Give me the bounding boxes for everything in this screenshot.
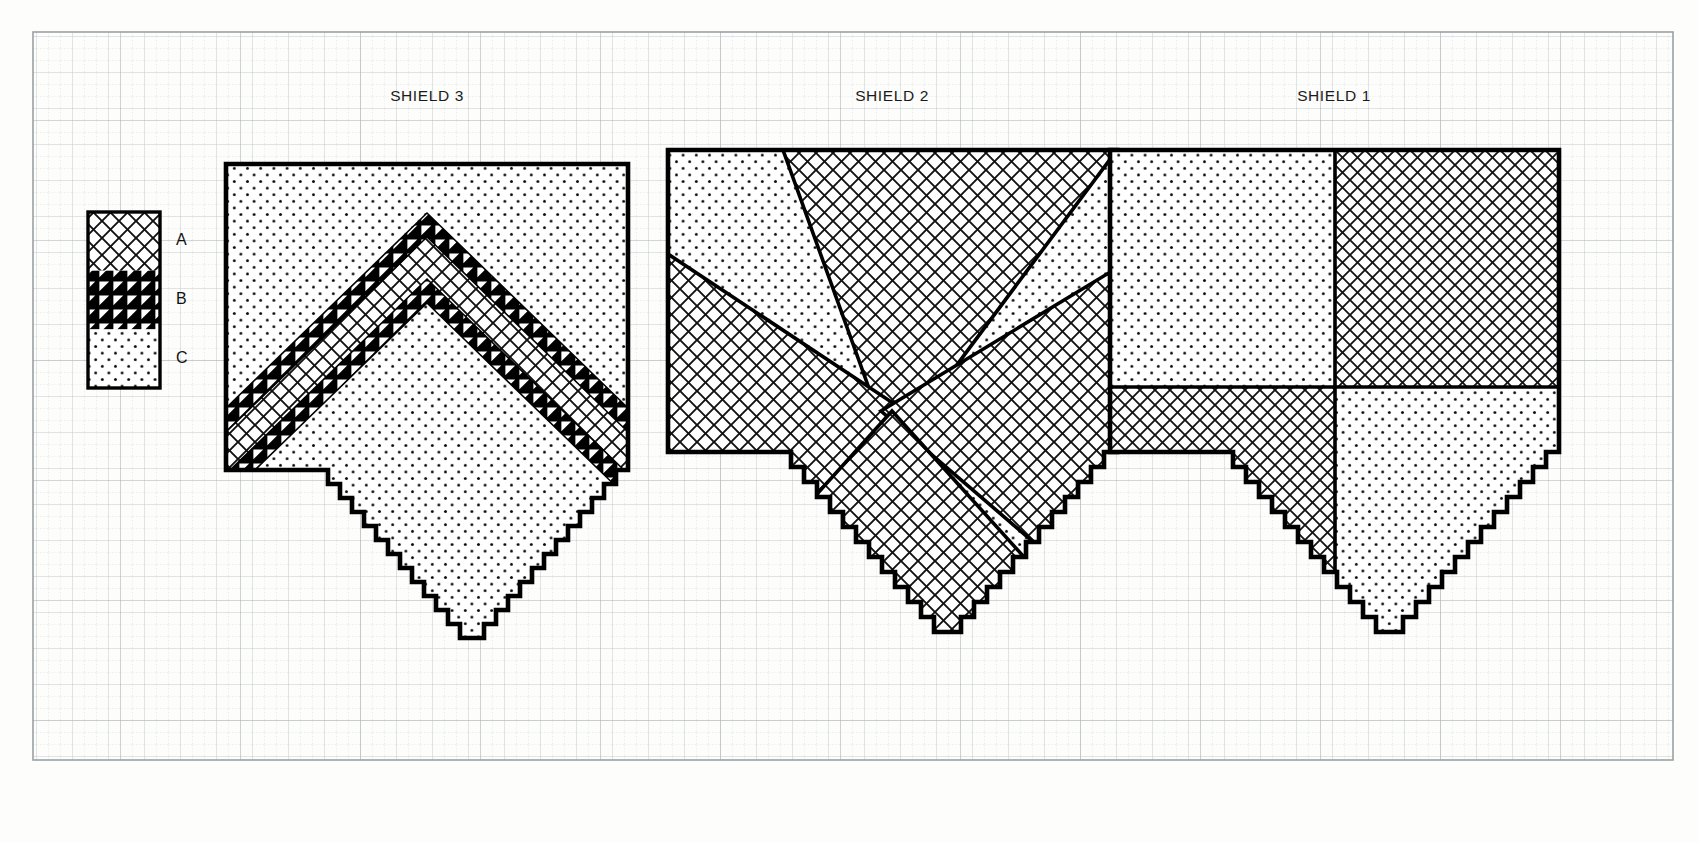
pattern-key	[88, 212, 160, 388]
pattern-key-label-b: B	[176, 290, 187, 308]
shield-1-title: SHIELD 1	[1297, 87, 1371, 105]
shield-drawing-svg	[0, 0, 1699, 843]
shield-3-title: SHIELD 3	[390, 87, 464, 105]
shield-1-quarter-top-left	[1110, 150, 1335, 387]
pattern-key-label-a: A	[176, 231, 187, 249]
drawing-sheet: SHIELD 3 SHIELD 2 SHIELD 1 A B C	[0, 0, 1699, 843]
shield-2-title: SHIELD 2	[855, 87, 929, 105]
pattern-key-label-c: C	[176, 349, 188, 367]
shield-1-quarter-top-right	[1335, 150, 1559, 387]
